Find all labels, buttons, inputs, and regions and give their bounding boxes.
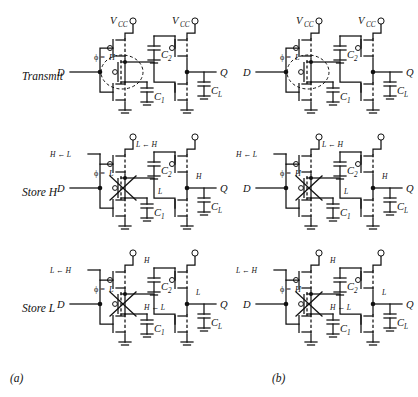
svg-text:1: 1 bbox=[347, 97, 351, 105]
tg-bubble bbox=[113, 186, 118, 191]
caption-b: (b) bbox=[272, 372, 286, 385]
label-nmos-left-gate: H ← L bbox=[329, 303, 351, 312]
node-d bbox=[98, 186, 103, 191]
svg-text:2: 2 bbox=[168, 171, 172, 179]
pmos-bubble-inv2 bbox=[356, 162, 361, 167]
nmos-inverter2 bbox=[175, 82, 187, 102]
phi-value: H bbox=[108, 53, 116, 62]
capacitor-c2: C 2 bbox=[148, 152, 172, 179]
label-inv1-out: L ← H bbox=[321, 140, 343, 149]
svg-text:L: L bbox=[403, 207, 408, 215]
svg-text:2: 2 bbox=[354, 171, 358, 179]
vcc-terminal-left bbox=[130, 18, 136, 24]
capacitor-c2: C 2 bbox=[148, 36, 172, 63]
label-inv1-out: L ← H bbox=[135, 140, 157, 149]
pmos-inverter2 bbox=[356, 270, 374, 290]
pmos-inverter2 bbox=[170, 270, 188, 290]
vcc-label-right: V CC bbox=[358, 15, 384, 29]
circuit-diagram-svg: Transmit Store H Store L (a) (b) V CC V … bbox=[0, 0, 418, 397]
vcc-terminal-left bbox=[316, 18, 322, 24]
vcc-label-left: V CC bbox=[296, 15, 322, 29]
input-label-d: D bbox=[242, 67, 251, 78]
svg-text:ϕ =: ϕ = bbox=[94, 53, 105, 62]
row-label-store-h: Store H bbox=[22, 186, 58, 198]
label-output-node: H bbox=[195, 172, 202, 181]
capacitor-c1: C 1 bbox=[141, 82, 165, 105]
output-label-q: Q bbox=[406, 67, 414, 78]
nmos-inverter2 bbox=[175, 198, 187, 218]
row-label-store-l: Store L bbox=[22, 302, 55, 314]
phi-value: L bbox=[108, 169, 114, 178]
pmos-inverter2 bbox=[356, 154, 374, 174]
nmos-inverter1 bbox=[113, 82, 125, 102]
transmission-gate bbox=[299, 60, 311, 84]
capacitor-cl: C L bbox=[384, 72, 408, 99]
capacitor-c1: C 1 bbox=[327, 314, 351, 337]
label-nmos-left-gate: L bbox=[157, 187, 162, 196]
label-nmos-left-gate: H ← L bbox=[143, 303, 165, 312]
vcc-label-left: V CC bbox=[110, 15, 136, 29]
capacitor-c2: C 2 bbox=[334, 152, 358, 179]
input-label-d: D bbox=[56, 299, 65, 310]
svg-text:ϕ =: ϕ = bbox=[280, 285, 291, 294]
circuit-cell-a-store-l: D ϕ = L L ← H bbox=[49, 250, 228, 345]
svg-text:L: L bbox=[403, 323, 408, 331]
label-inv1-out: H bbox=[143, 256, 150, 265]
node-d bbox=[98, 302, 103, 307]
pmos-inverter2 bbox=[170, 38, 188, 58]
node-d bbox=[98, 70, 103, 75]
svg-text:1: 1 bbox=[161, 97, 165, 105]
label-output-node: L bbox=[381, 288, 386, 297]
nmos-inverter1 bbox=[113, 198, 125, 218]
phi-label: ϕ = L bbox=[94, 169, 114, 178]
capacitor-cl: C L bbox=[198, 72, 222, 99]
capacitor-c2: C 2 bbox=[334, 36, 358, 63]
node-d bbox=[284, 302, 289, 307]
nmos-inverter1 bbox=[299, 82, 311, 102]
svg-text:1: 1 bbox=[347, 329, 351, 337]
vcc-terminal-right bbox=[192, 18, 198, 24]
svg-text:CC: CC bbox=[180, 21, 190, 29]
svg-text:L: L bbox=[217, 323, 222, 331]
label-pmos-left-gate: L ← H bbox=[235, 266, 257, 275]
circuit-cell-b-transmit: V CC V CC bbox=[242, 15, 414, 113]
pmos-bubble-inv2 bbox=[170, 162, 175, 167]
svg-text:2: 2 bbox=[168, 287, 172, 295]
phi-value: H bbox=[294, 169, 302, 178]
output-label-q: Q bbox=[406, 183, 414, 194]
svg-text:2: 2 bbox=[354, 287, 358, 295]
input-label-d: D bbox=[56, 183, 65, 194]
output-label-q: Q bbox=[220, 67, 228, 78]
pmos-inverter2 bbox=[170, 154, 188, 174]
svg-text:ϕ =: ϕ = bbox=[280, 169, 291, 178]
tg-bubble bbox=[113, 302, 118, 307]
figure-cmos-latch-states: Transmit Store H Store L (a) (b) V CC V … bbox=[0, 0, 418, 397]
circuit-cell-b-store-h: D ϕ = H H ← L bbox=[235, 134, 414, 229]
tg-bubble bbox=[113, 70, 118, 75]
nmos-inverter2 bbox=[361, 314, 373, 334]
svg-text:ϕ =: ϕ = bbox=[280, 53, 291, 62]
vcc-terminal-right bbox=[192, 250, 198, 256]
vcc-terminal-right bbox=[378, 250, 384, 256]
output-label-q: Q bbox=[220, 299, 228, 310]
caption-a: (a) bbox=[10, 372, 24, 385]
svg-text:2: 2 bbox=[354, 55, 358, 63]
pmos-bubble-inv2 bbox=[170, 278, 175, 283]
tg-bubble bbox=[299, 302, 304, 307]
nmos-inverter2 bbox=[361, 198, 373, 218]
pmos-bubble-inv2 bbox=[356, 46, 361, 51]
svg-text:CC: CC bbox=[366, 21, 376, 29]
input-label-d: D bbox=[56, 67, 65, 78]
vcc-terminal-right bbox=[378, 18, 384, 24]
inv1-gate-rail-bot bbox=[100, 72, 113, 92]
capacitor-cl: C L bbox=[198, 188, 222, 215]
svg-text:1: 1 bbox=[161, 329, 165, 337]
vcc-terminal-left bbox=[316, 250, 322, 256]
vcc-terminal-right bbox=[192, 134, 198, 140]
svg-text:1: 1 bbox=[161, 213, 165, 221]
svg-text:ϕ =: ϕ = bbox=[94, 169, 105, 178]
vcc-terminal-left bbox=[130, 250, 136, 256]
svg-text:L: L bbox=[217, 91, 222, 99]
phi-value: L bbox=[108, 285, 114, 294]
circuit-cell-a-store-h: D ϕ = L H ← L bbox=[49, 134, 228, 229]
